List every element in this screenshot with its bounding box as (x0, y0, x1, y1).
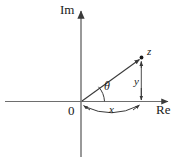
figure-canvas (0, 0, 181, 165)
point-z-marker (140, 56, 144, 60)
complex-plane-figure: Im Re 0 z x y θ (0, 0, 181, 165)
point-z-label: z (147, 46, 151, 57)
origin-label: 0 (68, 104, 75, 117)
theta-angle-label: θ (104, 80, 110, 92)
vector-z-ray (82, 60, 140, 102)
imaginary-axis-label: Im (60, 3, 74, 16)
real-axis-label: Re (156, 103, 170, 116)
y-component-label: y (134, 76, 139, 87)
x-component-label: x (109, 104, 114, 115)
x-brace-arrow-left (84, 106, 91, 111)
